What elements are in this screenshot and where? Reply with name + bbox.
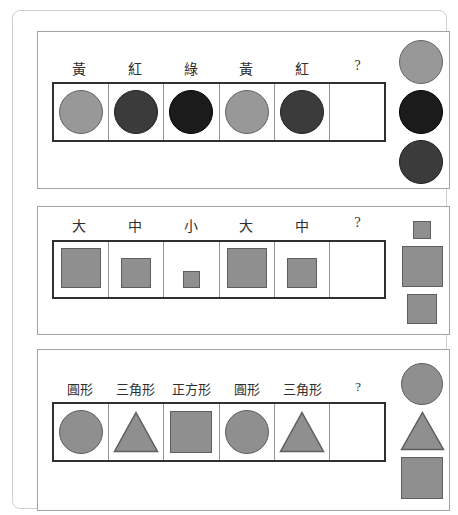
small-square-shape: [183, 271, 200, 288]
circle-shape: [225, 410, 269, 454]
yellow-circle-shape: [59, 90, 103, 134]
sequence-cell: [164, 84, 219, 140]
shape-label-circle-2: 圓形: [219, 379, 275, 398]
color-answer-options: [398, 40, 444, 184]
sequence-cell: [109, 242, 164, 297]
sequence-cell: [275, 404, 330, 460]
triangle-shape: [113, 411, 159, 453]
size-label-row: 大 中 小 大 中 ?: [52, 215, 386, 235]
size-answer-options: [401, 221, 443, 324]
red-circle-shape: [280, 90, 324, 134]
sequence-cell: [220, 84, 275, 140]
sequence-cell: [54, 404, 109, 460]
shape-label-triangle: 三角形: [108, 379, 164, 398]
color-label-row: 黃 紅 綠 黃 紅 ?: [52, 58, 386, 78]
triangle-shape: [279, 411, 325, 453]
option-small-square[interactable]: [413, 221, 431, 239]
size-label-medium: 中: [108, 215, 164, 235]
panel-size-pattern: 大 中 小 大 中 ?: [37, 206, 450, 335]
color-label-yellow-2: 黃: [219, 58, 275, 78]
shape-answer-options: [399, 363, 445, 499]
answer-cell[interactable]: [330, 84, 384, 140]
size-label-large-2: 大: [219, 215, 275, 235]
shape-label-square: 正方形: [163, 379, 219, 398]
color-label-red: 紅: [108, 58, 164, 78]
shape-label-row: 圓形 三角形 正方形 圓形 三角形 ?: [52, 379, 386, 398]
sequence-cell: [164, 404, 219, 460]
option-circle[interactable]: [401, 363, 443, 405]
yellow-circle-shape: [225, 90, 269, 134]
shape-sequence-strip: [52, 402, 386, 462]
size-sequence-strip: [52, 240, 386, 299]
option-green-circle[interactable]: [399, 90, 443, 134]
red-circle-shape: [114, 90, 158, 134]
option-triangle[interactable]: [400, 411, 445, 451]
question-mark-label: ?: [330, 379, 386, 398]
question-mark-label: ?: [330, 215, 386, 235]
shape-label-circle: 圓形: [52, 379, 108, 398]
size-label-large: 大: [52, 215, 108, 235]
circle-shape: [59, 410, 103, 454]
medium-square-shape: [287, 258, 317, 288]
sequence-cell: [54, 84, 109, 140]
option-red-circle[interactable]: [399, 140, 443, 184]
option-medium-square[interactable]: [407, 294, 437, 324]
color-sequence-strip: [52, 82, 386, 142]
size-label-medium-2: 中: [275, 215, 331, 235]
medium-square-shape: [121, 258, 151, 288]
sequence-cell: [109, 404, 164, 460]
color-label-green: 綠: [163, 58, 219, 78]
green-circle-shape: [169, 90, 213, 134]
color-label-red-2: 紅: [275, 58, 331, 78]
sequence-cell: [109, 84, 164, 140]
color-label-yellow: 黃: [52, 58, 108, 78]
sequence-cell: [220, 242, 275, 297]
answer-cell[interactable]: [330, 242, 384, 297]
large-square-shape: [61, 248, 101, 288]
worksheet-card: 黃 紅 綠 黃 紅 ?: [12, 10, 447, 509]
sequence-cell: [275, 84, 330, 140]
option-square[interactable]: [401, 457, 443, 499]
sequence-cell: [220, 404, 275, 460]
sequence-cell: [54, 242, 109, 297]
panel-shape-pattern: 圓形 三角形 正方形 圓形 三角形 ?: [37, 349, 450, 511]
option-yellow-circle[interactable]: [399, 40, 443, 84]
sequence-cell: [275, 242, 330, 297]
answer-cell[interactable]: [330, 404, 384, 460]
square-shape: [170, 411, 212, 453]
pattern-worksheet: 黃 紅 綠 黃 紅 ?: [0, 0, 458, 515]
sequence-cell: [164, 242, 219, 297]
option-large-square[interactable]: [402, 246, 443, 287]
size-label-small: 小: [163, 215, 219, 235]
panel-color-pattern: 黃 紅 綠 黃 紅 ?: [37, 31, 450, 189]
shape-label-triangle-2: 三角形: [275, 379, 331, 398]
large-square-shape: [227, 248, 267, 288]
question-mark-label: ?: [330, 58, 386, 78]
